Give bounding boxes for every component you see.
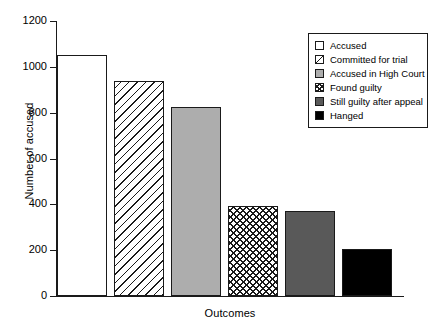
bar-accused-in-high-court bbox=[171, 107, 221, 296]
x-axis-line bbox=[56, 296, 404, 297]
bar-committed-for-trial bbox=[114, 81, 164, 296]
y-tick-800 bbox=[50, 113, 56, 114]
y-tick-label-0-wrap: 0 bbox=[0, 290, 47, 301]
y-tick-label-1200: 1200 bbox=[1, 15, 47, 26]
bar-accused bbox=[57, 55, 107, 296]
y-tick-label-400: 400 bbox=[1, 198, 47, 209]
y-tick-label-1200-wrap: 1200 bbox=[0, 15, 47, 26]
legend-label-still-guilty-after-appeal: Still guilty after appeal bbox=[330, 96, 423, 107]
y-tick-label-600: 600 bbox=[1, 153, 47, 164]
bar-still-guilty-after-appeal bbox=[285, 211, 335, 296]
legend-item-found-guilty: Found guilty bbox=[315, 81, 421, 94]
legend-item-accused: Accused bbox=[315, 39, 421, 52]
x-axis-title: Outcomes bbox=[56, 307, 404, 319]
y-tick-200 bbox=[50, 250, 56, 251]
legend-item-accused-in-high-court: Accused in High Court bbox=[315, 67, 421, 80]
legend-swatch-black-icon bbox=[315, 111, 324, 120]
bar-found-guilty bbox=[228, 206, 278, 297]
legend-item-committed-for-trial: Committed for trial bbox=[315, 53, 421, 66]
y-tick-label-1000: 1000 bbox=[1, 61, 47, 72]
legend-swatch-dark-gray-icon bbox=[315, 97, 324, 106]
y-tick-1200 bbox=[50, 21, 56, 22]
y-tick-label-200: 200 bbox=[1, 244, 47, 255]
y-tick-label-600-wrap: 600 bbox=[0, 153, 47, 164]
y-tick-label-400-wrap: 400 bbox=[0, 198, 47, 209]
y-tick-600 bbox=[50, 159, 56, 160]
legend-swatch-light-gray-icon bbox=[315, 69, 324, 78]
legend-item-hanged: Hanged bbox=[315, 109, 421, 122]
legend-item-still-guilty-after-appeal: Still guilty after appeal bbox=[315, 95, 421, 108]
legend-swatch-diagonal-hatch-icon bbox=[315, 55, 324, 64]
legend-label-accused-in-high-court: Accused in High Court bbox=[330, 68, 425, 79]
chart-legend: Accused Committed for trial Accused in H… bbox=[308, 33, 428, 128]
bar-chart: Number of accused 1200 1000 800 600 400 … bbox=[0, 0, 434, 332]
y-tick-1000 bbox=[50, 67, 56, 68]
legend-swatch-open-icon bbox=[315, 41, 324, 50]
y-tick-label-800: 800 bbox=[1, 107, 47, 118]
y-tick-label-1000-wrap: 1000 bbox=[0, 61, 47, 72]
legend-label-hanged: Hanged bbox=[330, 110, 363, 121]
y-tick-label-800-wrap: 800 bbox=[0, 107, 47, 118]
legend-label-committed-for-trial: Committed for trial bbox=[330, 54, 408, 65]
legend-label-accused: Accused bbox=[330, 40, 366, 51]
y-tick-400 bbox=[50, 204, 56, 205]
legend-swatch-checkerboard-icon bbox=[315, 83, 324, 92]
y-tick-label-0: 0 bbox=[1, 290, 47, 301]
legend-label-found-guilty: Found guilty bbox=[330, 82, 382, 93]
bar-hanged bbox=[342, 249, 392, 296]
y-tick-label-200-wrap: 200 bbox=[0, 244, 47, 255]
